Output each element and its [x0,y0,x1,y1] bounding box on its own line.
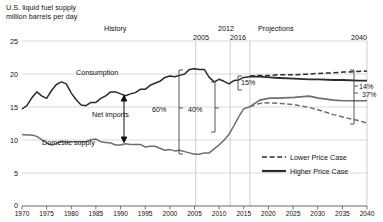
net-imports-arrow [121,96,127,143]
x-tick-1980: 1980 [58,210,84,217]
x-tick-2025: 2025 [280,210,306,217]
series-label-net-imports: Net imports [92,110,129,119]
legend-label-higher-price-case: Higher Price Case [290,167,348,176]
y-tick-20: 20 [4,70,18,79]
y-tick-0: 0 [4,201,18,210]
reference-lines [196,41,367,206]
chart-container: U.S. liquid fuel supply million barrels … [0,0,383,222]
x-tick-1970: 1970 [9,210,35,217]
y-tick-10: 10 [4,136,18,145]
series-consumption-history [22,69,250,109]
x-tick-2035: 2035 [329,210,355,217]
x-tick-2020: 2020 [255,210,281,217]
legend-swatches [262,157,286,171]
x-tick-2030: 2030 [305,210,331,217]
annotation-share-2005: 60% [152,105,166,114]
series-domestic-history [22,107,250,155]
x-tick-2040: 2040 [354,210,380,217]
series-label-consumption: Consumption [76,68,118,77]
y-tick-15: 15 [4,103,18,112]
x-tick-2000: 2000 [157,210,183,217]
share-bracket-2005 [179,70,183,154]
annotation-share-2012: 40% [188,105,202,114]
x-tick-1995: 1995 [132,210,158,217]
annotation-range-high: 37% [362,90,376,99]
series-domestic-higher-price [250,96,367,107]
axes [22,206,367,210]
series-consumption-higher-price [250,77,367,81]
series-domestic-lower-price [250,103,367,123]
x-tick-1990: 1990 [108,210,134,217]
x-tick-2005: 2005 [182,210,208,217]
x-tick-1975: 1975 [34,210,60,217]
y-tick-25: 25 [4,37,18,46]
annotation-share-2016: 15% [241,78,255,87]
range-bracket-2040 [350,70,358,124]
x-tick-2010: 2010 [206,210,232,217]
x-tick-1985: 1985 [83,210,109,217]
series-label-domestic-supply: Domestic supply [42,138,95,147]
series-consumption-lower-price [250,71,367,76]
x-tick-2015: 2015 [231,210,257,217]
legend-label-lower-price-case: Lower Price Case [290,153,347,162]
y-tick-5: 5 [4,169,18,178]
